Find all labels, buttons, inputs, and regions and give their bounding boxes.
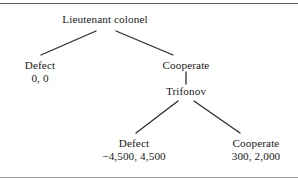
node-lieutenant-colonel-label: Lieutenant colonel <box>62 13 147 26</box>
edge-trifonov-to-cooperate <box>194 101 240 133</box>
node-cooperate-bottom: Cooperate 300, 2,000 <box>232 137 281 162</box>
game-tree-figure: Lieutenant colonel Defect 0, 0 Cooperate… <box>0 0 298 183</box>
node-cooperate-upper: Cooperate <box>163 59 210 72</box>
node-cooperate-bottom-payoff: 300, 2,000 <box>232 150 281 163</box>
node-defect-left-payoff: 0, 0 <box>25 72 55 85</box>
edge-trifonov-to-defect <box>136 101 178 133</box>
node-defect-left: Defect 0, 0 <box>25 59 55 84</box>
node-defect-left-label: Defect <box>25 59 55 72</box>
node-defect-bottom: Defect −4,500, 4,500 <box>102 137 166 162</box>
node-defect-bottom-label: Defect <box>102 137 166 150</box>
node-trifonov: Trifonov <box>166 85 206 98</box>
node-cooperate-bottom-label: Cooperate <box>232 137 281 150</box>
node-cooperate-upper-label: Cooperate <box>163 59 210 72</box>
figure-bottom-rule <box>0 177 298 178</box>
edge-root-to-cooperate <box>116 31 173 55</box>
figure-top-rule <box>0 3 298 4</box>
node-trifonov-label: Trifonov <box>166 85 206 98</box>
edge-root-to-defect <box>41 31 96 55</box>
node-lieutenant-colonel: Lieutenant colonel <box>62 13 147 26</box>
node-defect-bottom-payoff: −4,500, 4,500 <box>102 150 166 163</box>
